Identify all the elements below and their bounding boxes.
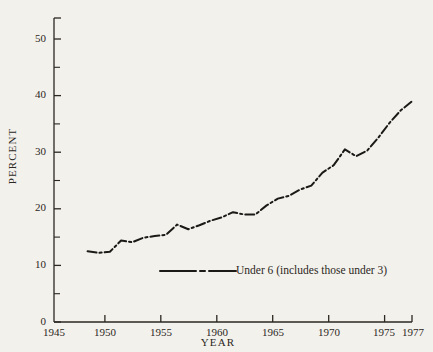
y-tick-label-50: 50 bbox=[22, 32, 46, 44]
x-tick-label-1965: 1965 bbox=[253, 326, 293, 338]
x-tick-label-1955: 1955 bbox=[141, 326, 181, 338]
y-axis-minor-ticks bbox=[54, 67, 60, 293]
x-axis-title: YEAR bbox=[182, 336, 254, 348]
x-tick-label-1977: 1977 bbox=[393, 326, 433, 338]
y-tick-label-20: 20 bbox=[22, 201, 46, 213]
series-under-6-line bbox=[88, 101, 412, 253]
y-tick-label-40: 40 bbox=[22, 88, 46, 100]
x-tick-label-1945: 1945 bbox=[34, 326, 74, 338]
x-axis-ticks bbox=[105, 315, 412, 322]
y-tick-label-10: 10 bbox=[22, 258, 46, 270]
x-tick-label-1950: 1950 bbox=[85, 326, 125, 338]
y-axis-title: PERCENT bbox=[6, 118, 18, 194]
chart-figure: 0 10 20 30 40 50 1945 1950 1955 1960 196… bbox=[0, 0, 433, 352]
x-tick-label-1970: 1970 bbox=[309, 326, 349, 338]
legend-entry-label: Under 6 (includes those under 3) bbox=[236, 264, 387, 276]
y-tick-label-30: 30 bbox=[22, 145, 46, 157]
chart-canvas bbox=[0, 0, 433, 352]
